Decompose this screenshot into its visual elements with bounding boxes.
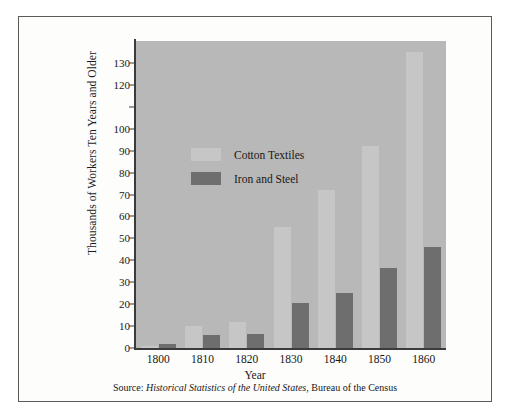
- legend-swatch-iron-and-steel: [191, 172, 221, 185]
- bar-cotton-textiles-1820: [229, 322, 246, 348]
- y-tick-label: 120: [114, 79, 131, 91]
- x-tick-label: 1850: [368, 353, 391, 365]
- bar-iron-and-steel-1850: [380, 268, 397, 348]
- legend-item: Iron and Steel: [191, 169, 304, 188]
- source-prefix: Source:: [113, 382, 146, 393]
- bar-iron-and-steel-1840: [336, 293, 353, 348]
- figure-frame: Thousands of Workers Ten Years and Older…: [18, 16, 492, 402]
- bar-iron-and-steel-1820: [247, 334, 264, 348]
- plot-area: [136, 41, 446, 348]
- bar-cotton-textiles-1860: [406, 52, 423, 348]
- chart-legend: Cotton TextilesIron and Steel: [191, 145, 304, 193]
- legend-label: Cotton Textiles: [234, 149, 304, 161]
- legend-swatch-cotton-textiles: [191, 148, 221, 161]
- source-suffix: , Bureau of the Census: [306, 382, 397, 393]
- source-publication-title: Historical Statistics of the United Stat…: [146, 382, 306, 393]
- x-tick-label: 1830: [280, 353, 303, 365]
- x-tick-label: 1810: [191, 353, 214, 365]
- source-caption: Source: Historical Statistics of the Uni…: [19, 382, 491, 393]
- x-tick-label: 1820: [235, 353, 258, 365]
- bar-cotton-textiles-1800: [141, 346, 158, 348]
- y-tick-label: 130: [114, 57, 131, 69]
- x-tick-label: 1840: [324, 353, 347, 365]
- y-tick-label: 100: [114, 123, 131, 135]
- x-tick-label: 1860: [412, 353, 435, 365]
- bar-cotton-textiles-1850: [362, 146, 379, 348]
- x-axis-title: Year: [19, 369, 491, 381]
- legend-item: Cotton Textiles: [191, 145, 304, 164]
- bar-iron-and-steel-1830: [292, 303, 309, 348]
- legend-label: Iron and Steel: [234, 173, 299, 185]
- x-tick-label: 1800: [147, 353, 170, 365]
- bar-cotton-textiles-1810: [185, 326, 202, 348]
- bar-iron-and-steel-1800: [159, 344, 176, 348]
- bar-iron-and-steel-1860: [424, 247, 441, 348]
- x-axis-line: [134, 348, 446, 350]
- bar-cotton-textiles-1840: [318, 190, 335, 348]
- y-axis-tick-labels: 0102030405060708090100120130: [97, 17, 130, 403]
- bar-cotton-textiles-1830: [274, 227, 291, 348]
- bar-iron-and-steel-1810: [203, 335, 220, 348]
